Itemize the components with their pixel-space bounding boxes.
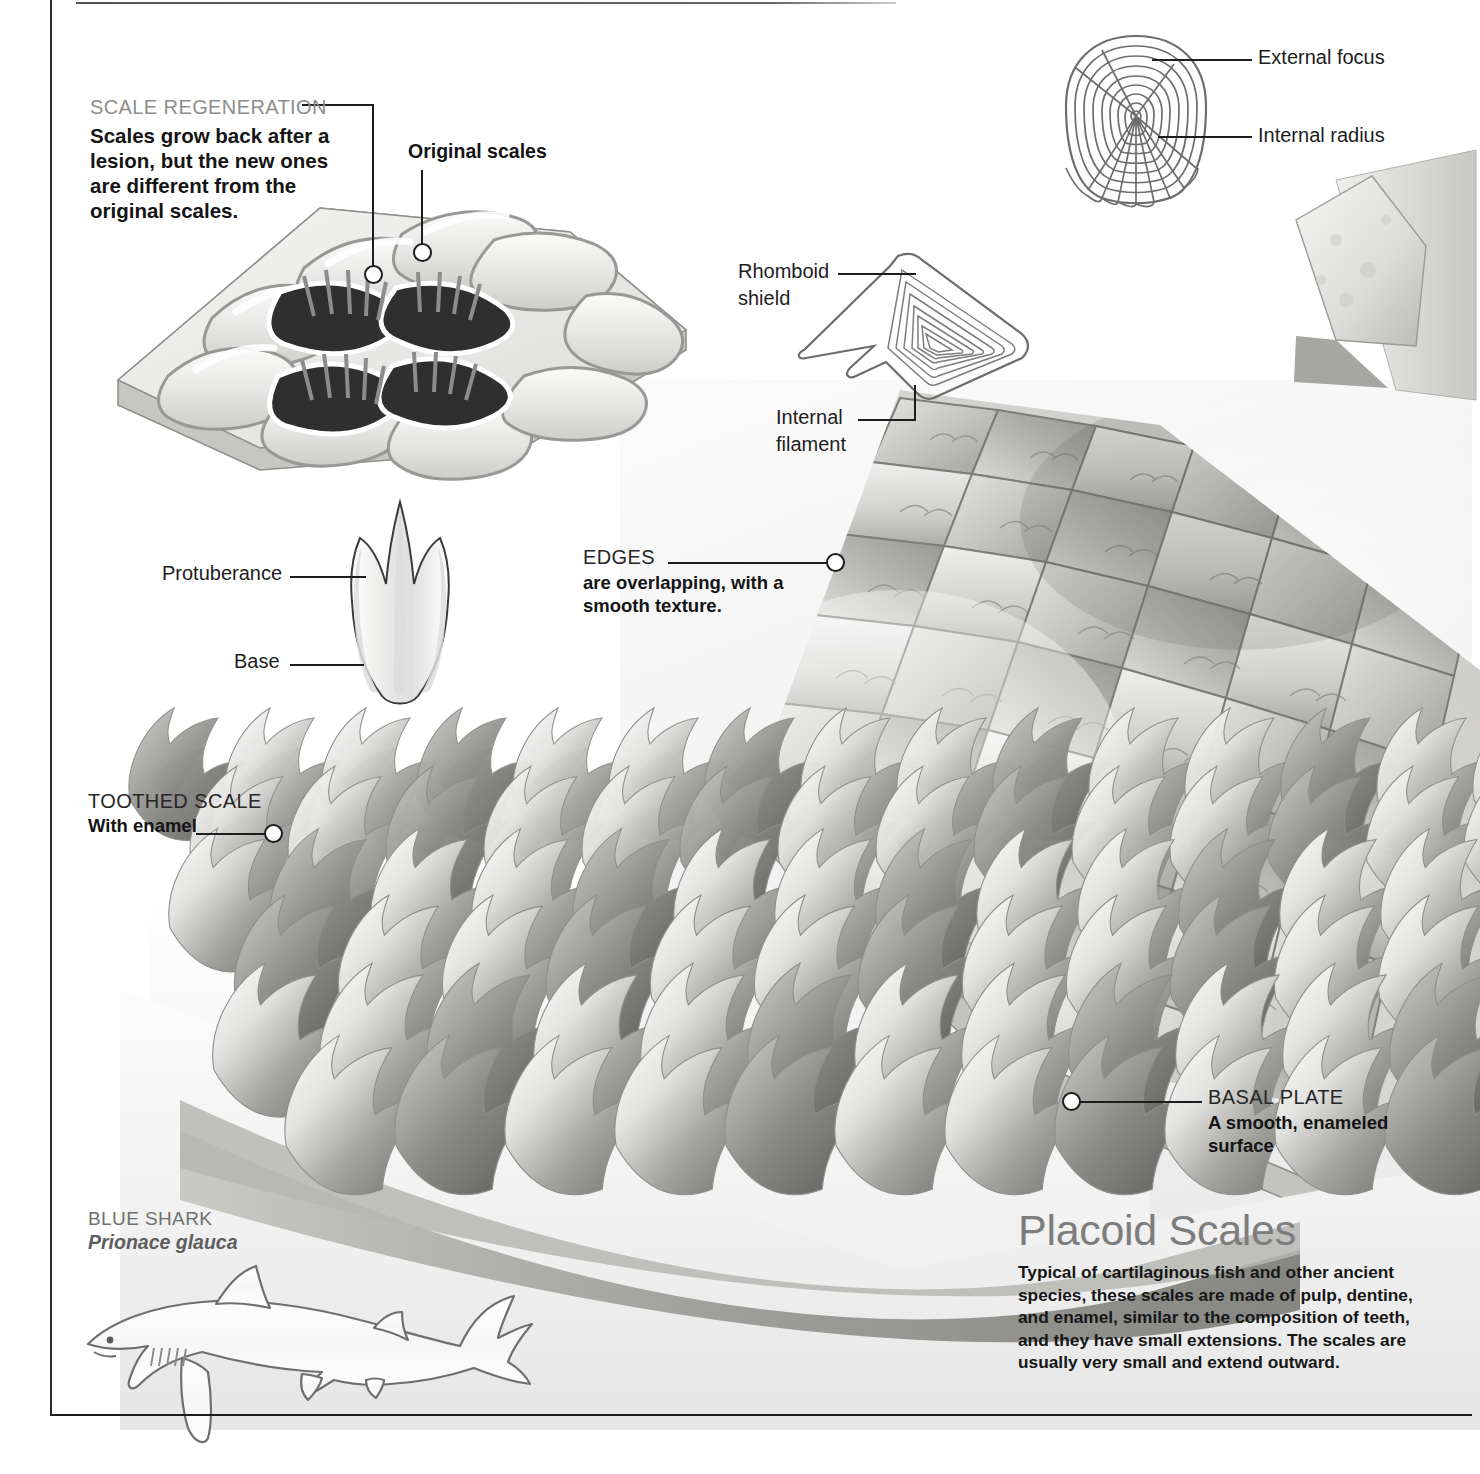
external-focus-text: External focus: [1258, 46, 1385, 68]
page-title: Placoid Scales: [1018, 1205, 1438, 1255]
label-basal-plate: BASAL PLATE A smooth, enameled surface: [1208, 1086, 1418, 1157]
left-frame-rule: [50, 0, 52, 1416]
scale-regeneration-slab: [100, 180, 700, 470]
label-protuberance: Protuberance: [162, 562, 282, 585]
label-toothed-scale: TOOTHED SCALE With enamel: [88, 790, 318, 837]
label-external-focus: External focus: [1258, 46, 1385, 69]
base-text: Base: [234, 650, 280, 672]
label-blue-shark: BLUE SHARK Prionace glauca: [88, 1208, 248, 1255]
leader-internal-filament-v: [914, 385, 916, 420]
shark-scientific-name: Prionace glauca: [88, 1230, 248, 1255]
toothed-scale-body: With enamel: [88, 815, 318, 837]
label-edges: EDGES are overlapping, with a smooth tex…: [583, 546, 813, 617]
shark-common-name: BLUE SHARK: [88, 1208, 248, 1230]
original-scales-text: Original scales: [408, 140, 547, 162]
figure-title-block: Placoid Scales Typical of cartilaginous …: [1018, 1205, 1438, 1374]
placoid-scale-outline: [300, 498, 500, 728]
internal-radius-text: Internal radius: [1258, 124, 1385, 146]
leader-scale-regeneration-v: [372, 104, 374, 269]
leader-protuberance: [290, 576, 366, 578]
protuberance-text: Protuberance: [162, 562, 282, 584]
leader-base: [290, 664, 364, 666]
edges-heading: EDGES: [583, 546, 813, 569]
top-frame-rule: [76, 2, 896, 4]
leader-external-focus: [1152, 59, 1252, 61]
dot-original-scales: [413, 243, 432, 262]
basal-plate-heading: BASAL PLATE: [1208, 1086, 1418, 1109]
label-internal-filament: Internal filament: [776, 404, 896, 458]
dot-edges: [826, 553, 845, 572]
label-scale-regeneration: SCALE REGENERATION Scales grow back afte…: [90, 96, 350, 223]
cropped-textured-scale: [1276, 150, 1476, 420]
blue-shark-silhouette: [70, 1258, 590, 1458]
label-internal-radius: Internal radius: [1258, 124, 1385, 147]
dot-basal-plate: [1062, 1092, 1081, 1111]
internal-filament-text: Internal filament: [776, 404, 896, 458]
leader-original-scales: [421, 170, 423, 247]
dot-scale-regeneration: [364, 265, 383, 284]
bottom-frame-rule: [52, 1414, 1472, 1416]
scale-regeneration-body: Scales grow back after a lesion, but the…: [90, 123, 350, 223]
leader-internal-radius: [1158, 136, 1252, 138]
basal-plate-body: A smooth, enameled surface: [1208, 1111, 1418, 1157]
edges-body: are overlapping, with a smooth texture.: [583, 571, 813, 617]
label-base: Base: [234, 650, 280, 673]
scale-regeneration-heading: SCALE REGENERATION: [90, 96, 350, 119]
cycloid-scale-diagram: [1046, 28, 1226, 208]
label-original-scales: Original scales: [408, 140, 547, 163]
figure-description: Typical of cartilaginous fish and other …: [1018, 1261, 1438, 1374]
rhomboid-shield-text: Rhomboid shield: [738, 258, 868, 312]
leader-basal-plate: [1078, 1101, 1202, 1103]
label-rhomboid-shield: Rhomboid shield: [738, 258, 868, 312]
toothed-scale-heading: TOOTHED SCALE: [88, 790, 318, 813]
